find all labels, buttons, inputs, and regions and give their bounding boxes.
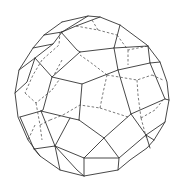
- visible-edge: [55, 138, 104, 158]
- visible-edge: [15, 16, 169, 176]
- visible-edge: [55, 118, 70, 146]
- visible-edge: [79, 114, 131, 138]
- hidden-edge: [141, 100, 163, 118]
- visible-edge: [150, 63, 169, 100]
- visible-edge: [55, 146, 60, 170]
- hidden-edge: [40, 125, 42, 140]
- hidden-edge: [25, 60, 42, 93]
- hidden-edge: [92, 20, 98, 30]
- visible-edge: [19, 44, 53, 70]
- visible-edge: [41, 111, 79, 120]
- hidden-edge: [80, 55, 107, 75]
- polyhedron-wireframe: [0, 0, 179, 192]
- hidden-edge: [137, 80, 141, 118]
- visible-edge: [52, 70, 118, 84]
- hidden-edge: [76, 26, 117, 35]
- hidden-edge: [107, 75, 152, 80]
- hidden-edge: [54, 60, 62, 75]
- visible-edge: [34, 111, 55, 149]
- visible-edge: [61, 32, 80, 52]
- hidden-edge: [152, 75, 163, 80]
- visible-edge: [114, 48, 150, 70]
- visible-edge: [79, 84, 82, 120]
- visible-edges: [15, 16, 169, 176]
- hidden-edge: [100, 75, 107, 108]
- visible-edge: [104, 135, 146, 158]
- hidden-edge: [36, 103, 50, 125]
- visible-edge: [20, 117, 40, 156]
- visible-edge: [84, 158, 119, 170]
- visible-edge: [131, 114, 165, 135]
- hidden-edge: [100, 108, 128, 117]
- visible-edge: [35, 52, 80, 77]
- hidden-edge: [52, 80, 59, 90]
- visible-edge: [55, 146, 84, 176]
- visible-edge: [44, 16, 88, 35]
- visible-edge: [118, 70, 165, 114]
- hidden-edge: [63, 105, 100, 115]
